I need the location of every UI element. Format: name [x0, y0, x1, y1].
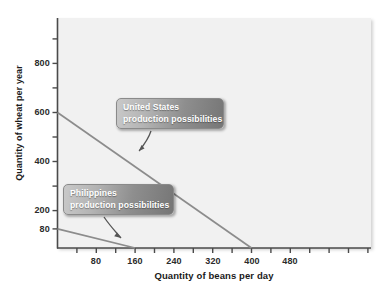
us-ppf-line	[58, 113, 252, 249]
x-tick-label-320: 320	[198, 256, 228, 266]
callout-philippines: Philippines production possibilities	[63, 184, 174, 215]
x-tick-label-160: 160	[120, 256, 150, 266]
x-tick-label-480: 480	[275, 256, 305, 266]
x-tick-label-80: 80	[81, 256, 111, 266]
callout-ph-line2: production possibilities	[70, 200, 167, 212]
philippines-callout-arrow	[104, 217, 121, 238]
x-tick-label-240: 240	[159, 256, 189, 266]
philippines-ppf-line	[58, 229, 136, 248]
y-tick-label-200: 200	[26, 205, 50, 215]
callout-ph-line1: Philippines	[70, 188, 167, 200]
chart-canvas	[0, 0, 390, 294]
callout-united-states: United States production possibilities	[116, 98, 224, 129]
y-tick-label-80: 80	[26, 224, 50, 234]
callout-us-line2: production possibilities	[123, 114, 217, 126]
x-axis-title: Quantity of beans per day	[57, 270, 371, 281]
ppf-chart-figure: 800 600 400 200 80 80 160 240 320 400 48…	[0, 0, 390, 294]
x-tick-label-400: 400	[237, 256, 267, 266]
callout-us-line1: United States	[123, 102, 217, 114]
y-tick-label-600: 600	[26, 107, 50, 117]
y-tick-label-800: 800	[26, 58, 50, 68]
y-tick-label-400: 400	[26, 156, 50, 166]
y-axis-title: Quantity of wheat per year	[14, 58, 24, 188]
us-callout-arrow	[139, 131, 151, 151]
